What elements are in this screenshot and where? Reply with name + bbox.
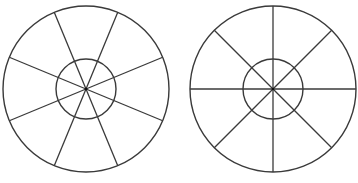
right-wheel-figure [190,6,356,172]
diagram-canvas [0,0,358,183]
center-point [85,88,88,91]
center-point [272,88,275,91]
left-wheel-figure [3,6,169,172]
